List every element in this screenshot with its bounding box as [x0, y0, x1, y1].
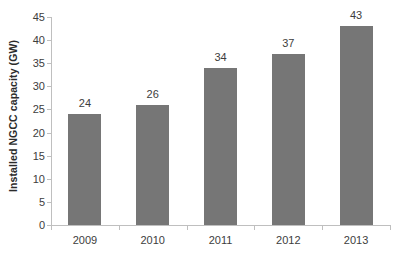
y-tick-label: 45	[33, 11, 45, 23]
x-axis-label: 2012	[276, 234, 300, 246]
x-axis-line	[51, 225, 390, 226]
bar	[204, 68, 237, 225]
y-tick-label: 35	[33, 57, 45, 69]
y-axis-title-text: Installed NGCC capacity (GW)	[7, 40, 19, 192]
bar	[68, 114, 101, 225]
y-tick-mark	[47, 202, 51, 203]
y-tick-mark	[47, 109, 51, 110]
y-tick-mark	[47, 63, 51, 64]
y-tick-label: 15	[33, 150, 45, 162]
x-axis-label: 2013	[344, 234, 368, 246]
y-axis-title: Installed NGCC capacity (GW)	[0, 0, 26, 232]
bar-value-label: 34	[214, 51, 226, 63]
y-tick-mark	[47, 179, 51, 180]
y-tick-mark	[47, 156, 51, 157]
bar-value-label: 26	[147, 88, 159, 100]
y-tick-mark	[47, 40, 51, 41]
bar-value-label: 24	[79, 97, 91, 109]
x-tick-mark	[322, 225, 323, 230]
x-axis-label: 2011	[209, 234, 233, 246]
y-tick-label: 40	[33, 34, 45, 46]
y-tick-label: 0	[39, 219, 45, 231]
bar	[340, 26, 373, 225]
y-tick-mark	[47, 17, 51, 18]
y-tick-label: 25	[33, 103, 45, 115]
y-axis-line	[51, 17, 52, 225]
y-tick-mark	[47, 86, 51, 87]
y-tick-label: 10	[33, 173, 45, 185]
bar-chart: Installed NGCC capacity (GW) 05101520253…	[0, 0, 398, 260]
y-tick-label: 5	[39, 196, 45, 208]
x-tick-mark	[119, 225, 120, 230]
bar	[272, 54, 305, 225]
plot-area: 051015202530354045 2426343743 2009201020…	[51, 17, 390, 225]
x-tick-mark	[390, 225, 391, 230]
y-tick-label: 20	[33, 127, 45, 139]
x-tick-mark	[51, 225, 52, 230]
x-tick-mark	[187, 225, 188, 230]
x-axis-label: 2010	[140, 234, 164, 246]
x-axis-label: 2009	[73, 234, 97, 246]
bar-value-label: 37	[282, 37, 294, 49]
y-tick-mark	[47, 133, 51, 134]
y-tick-label: 30	[33, 80, 45, 92]
x-tick-mark	[254, 225, 255, 230]
bar	[136, 105, 169, 225]
bar-value-label: 43	[350, 9, 362, 21]
